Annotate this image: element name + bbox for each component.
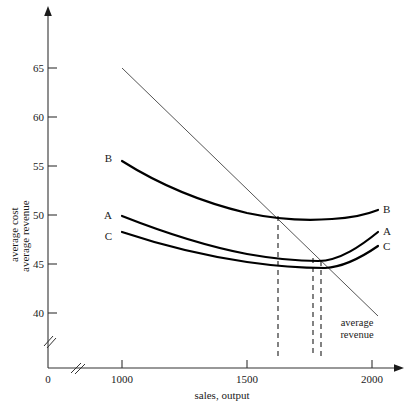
x-tick-label-1500: 1500 bbox=[236, 373, 259, 385]
y-tick-label-40: 40 bbox=[33, 307, 45, 319]
curve-label-b-left: B bbox=[105, 152, 112, 164]
x-tick-label-2000: 2000 bbox=[361, 373, 384, 385]
y-tick-label-65: 65 bbox=[33, 62, 45, 74]
curve-label-a-right: A bbox=[383, 225, 391, 237]
x-tick-label-1000: 1000 bbox=[111, 373, 134, 385]
average-cost-revenue-chart: 65 60 55 50 45 40 0 1000 1500 2000 sales… bbox=[0, 0, 407, 405]
x-axis-title: sales, output bbox=[195, 389, 250, 401]
y-axis-title: average cost average revenue bbox=[8, 200, 31, 272]
x-tick-label-0: 0 bbox=[45, 373, 51, 385]
curve-label-b-right: B bbox=[383, 203, 390, 215]
curve-labels-right: B A C bbox=[383, 203, 391, 252]
curve-label-c-left: C bbox=[105, 230, 112, 242]
curve-label-c-right: C bbox=[383, 240, 390, 252]
average-revenue-label-line1: average bbox=[341, 317, 374, 328]
y-tick-label-50: 50 bbox=[33, 209, 45, 221]
y-axis-title-line2: average revenue bbox=[19, 200, 31, 272]
y-tick-label-60: 60 bbox=[33, 111, 45, 123]
y-tick-label-45: 45 bbox=[33, 258, 45, 270]
chart-page: 65 60 55 50 45 40 0 1000 1500 2000 sales… bbox=[0, 0, 407, 405]
y-tick-label-55: 55 bbox=[33, 160, 45, 172]
chart-background bbox=[0, 0, 407, 405]
average-revenue-label-line2: revenue bbox=[340, 329, 374, 340]
average-revenue-annotation: average revenue bbox=[340, 317, 374, 340]
curve-label-a-left: A bbox=[104, 209, 112, 221]
